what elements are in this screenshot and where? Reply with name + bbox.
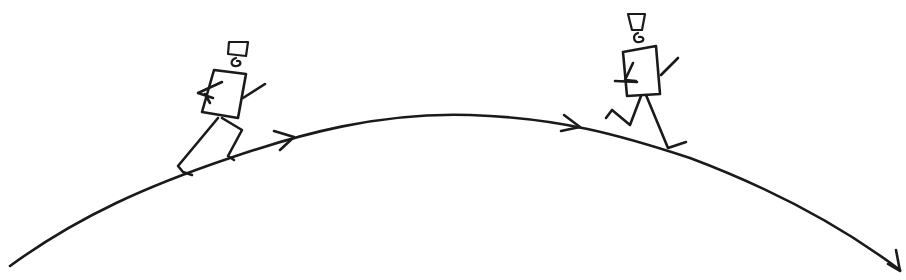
runner-uphill-front-arm [243, 84, 265, 98]
runner-downhill-head [628, 14, 645, 30]
runner-uphill-neck [232, 58, 241, 66]
direction-arrow-3 [888, 250, 900, 271]
runner-uphill-back-leg [178, 118, 218, 175]
sketch-canvas [0, 0, 906, 280]
runner-downhill-neck [634, 33, 643, 42]
runner-downhill-front-leg [646, 95, 686, 148]
runner-downhill [606, 14, 686, 148]
direction-arrow-2 [561, 115, 580, 131]
runner-downhill-back-leg [606, 96, 641, 125]
runner-downhill-front-arm [661, 58, 678, 75]
arc-path [10, 115, 900, 270]
runner-uphill-body [202, 70, 246, 118]
runner-uphill-head [228, 42, 248, 56]
runner-uphill [178, 42, 265, 175]
